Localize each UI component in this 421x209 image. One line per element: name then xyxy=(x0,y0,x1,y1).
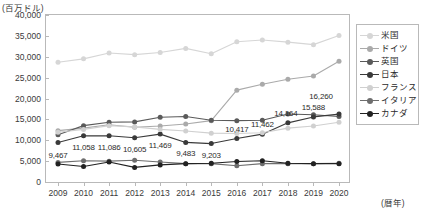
y-tick-mark xyxy=(45,140,49,141)
legend-marker-icon xyxy=(360,82,379,93)
data-label: 9,203 xyxy=(202,150,221,159)
data-point xyxy=(234,39,239,44)
legend-item-カナダ[interactable]: カナダ xyxy=(360,107,416,120)
data-point xyxy=(209,161,214,166)
data-label: 11,462 xyxy=(251,120,274,129)
data-point xyxy=(132,165,137,170)
plot-area xyxy=(45,14,350,183)
y-tick-mark xyxy=(45,57,49,58)
data-label: 9,467 xyxy=(48,151,67,160)
data-point xyxy=(183,161,188,166)
x-tick-mark xyxy=(160,182,161,186)
data-point xyxy=(158,162,163,167)
data-point xyxy=(311,124,316,129)
data-point xyxy=(132,52,137,57)
data-point xyxy=(209,51,214,56)
data-point xyxy=(132,135,137,140)
data-label: 15,588 xyxy=(302,102,325,111)
data-point xyxy=(285,120,290,125)
data-point xyxy=(183,129,188,134)
series-ドイツ xyxy=(56,59,342,133)
legend-item-イタリア[interactable]: イタリア xyxy=(360,94,416,107)
y-tick-label: 10,000 xyxy=(0,136,44,145)
legend-item-ドイツ[interactable]: ドイツ xyxy=(360,42,416,55)
legend-item-英国[interactable]: 英国 xyxy=(360,55,416,68)
x-tick-mark xyxy=(58,182,59,186)
data-point xyxy=(81,158,86,163)
data-label: 11,469 xyxy=(149,141,172,150)
y-tick-label: 20,000 xyxy=(0,94,44,103)
data-point xyxy=(209,141,214,146)
legend-label: 日本 xyxy=(379,70,399,79)
data-point xyxy=(285,40,290,45)
data-point xyxy=(285,77,290,82)
x-tick-label: 2017 xyxy=(253,189,272,198)
data-point xyxy=(285,126,290,131)
data-point xyxy=(209,118,214,123)
legend-label: フランス xyxy=(379,83,417,92)
data-point xyxy=(337,112,342,117)
data-label: 16,260 xyxy=(309,92,332,101)
data-point xyxy=(234,118,239,123)
y-tick-label: 0 xyxy=(0,178,44,187)
data-point xyxy=(260,158,265,163)
x-tick-label: 2010 xyxy=(74,189,93,198)
x-tick-label: 2012 xyxy=(125,189,144,198)
data-point xyxy=(311,73,316,78)
legend-item-フランス[interactable]: フランス xyxy=(360,81,416,94)
x-tick-label: 2020 xyxy=(330,189,349,198)
data-point xyxy=(209,131,214,136)
x-tick-label: 2015 xyxy=(202,189,221,198)
data-point xyxy=(56,140,61,145)
y-tick-label: 40,000 xyxy=(0,11,44,20)
legend-marker-icon xyxy=(360,30,379,41)
data-point xyxy=(183,114,188,119)
data-point xyxy=(158,132,163,137)
x-tick-mark xyxy=(211,182,212,186)
data-point xyxy=(260,130,265,135)
data-point xyxy=(81,127,86,132)
data-point xyxy=(107,50,112,55)
data-point xyxy=(337,120,342,125)
y-tick-label: 25,000 xyxy=(0,73,44,82)
legend-marker-icon xyxy=(360,43,379,54)
x-tick-label: 2009 xyxy=(49,189,68,198)
data-point xyxy=(311,114,316,119)
data-point xyxy=(56,60,61,65)
data-point xyxy=(183,46,188,51)
series-英国 xyxy=(56,111,342,137)
x-tick-label: 2019 xyxy=(304,189,323,198)
y-tick-mark xyxy=(45,119,49,120)
legend: 米国ドイツ英国日本フランスイタリアカナダ xyxy=(356,24,419,125)
x-tick-label: 2011 xyxy=(100,189,118,198)
data-point xyxy=(56,162,61,167)
legend-item-米国[interactable]: 米国 xyxy=(360,29,416,42)
legend-item-日本[interactable]: 日本 xyxy=(360,68,416,81)
data-point xyxy=(158,115,163,120)
y-tick-label: 35,000 xyxy=(0,32,44,41)
data-label: 14,164 xyxy=(274,108,297,117)
x-tick-mark xyxy=(186,182,187,186)
y-tick-mark xyxy=(45,78,49,79)
legend-label: 英国 xyxy=(379,57,399,66)
data-point xyxy=(234,88,239,93)
data-point xyxy=(81,133,86,138)
legend-marker-icon xyxy=(360,95,379,106)
data-point xyxy=(158,50,163,55)
x-tick-label: 2014 xyxy=(176,189,195,198)
y-tick-mark xyxy=(45,15,49,16)
data-point xyxy=(234,136,239,141)
data-label: 9,483 xyxy=(176,149,195,158)
x-tick-label: 2018 xyxy=(278,189,297,198)
legend-label: イタリア xyxy=(379,96,417,105)
data-point xyxy=(260,38,265,43)
data-point xyxy=(260,82,265,87)
y-tick-mark xyxy=(45,36,49,37)
x-tick-label: 2016 xyxy=(227,189,246,198)
x-tick-mark xyxy=(84,182,85,186)
x-tick-mark xyxy=(135,182,136,186)
x-tick-mark xyxy=(262,182,263,186)
x-tick-mark xyxy=(109,182,110,186)
data-point xyxy=(132,158,137,163)
data-point xyxy=(158,127,163,132)
